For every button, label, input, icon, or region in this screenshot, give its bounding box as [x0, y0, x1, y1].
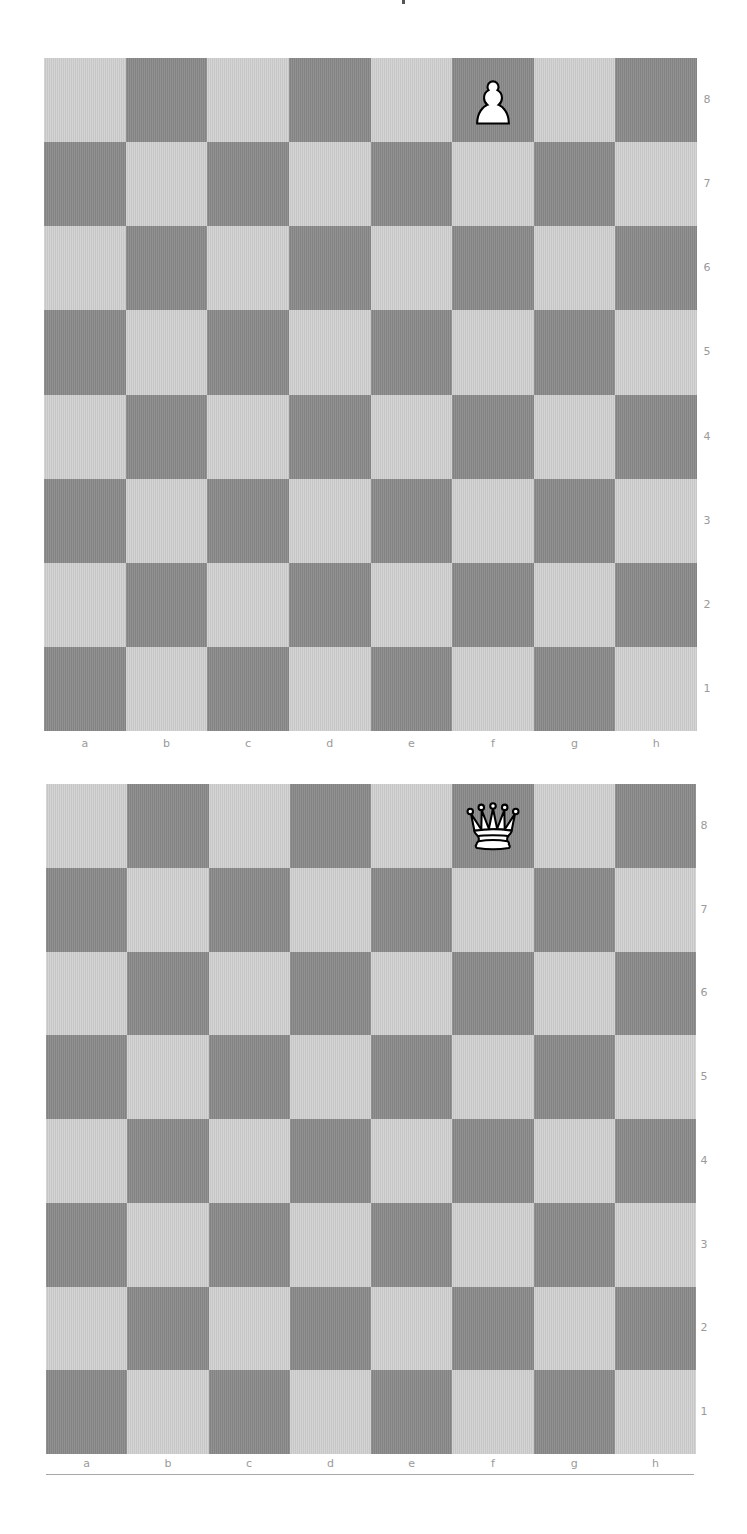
square-c1[interactable] [207, 647, 289, 731]
square-f3[interactable] [452, 479, 534, 563]
square-d6[interactable] [289, 226, 371, 310]
square-f5[interactable] [452, 1035, 533, 1119]
square-g7[interactable] [534, 142, 616, 226]
square-h1[interactable] [615, 1370, 696, 1454]
square-f4[interactable] [452, 395, 534, 479]
square-d1[interactable] [289, 647, 371, 731]
square-e7[interactable] [371, 868, 452, 952]
square-d4[interactable] [289, 395, 371, 479]
square-b3[interactable] [127, 1203, 208, 1287]
square-b2[interactable] [126, 563, 208, 647]
square-b4[interactable] [127, 1119, 208, 1203]
square-h8[interactable] [615, 784, 696, 868]
square-a5[interactable] [44, 310, 126, 394]
square-g1[interactable] [534, 647, 616, 731]
square-c2[interactable] [209, 1287, 290, 1371]
square-c4[interactable] [207, 395, 289, 479]
square-e5[interactable] [371, 310, 453, 394]
square-h1[interactable] [615, 647, 697, 731]
square-b7[interactable] [127, 868, 208, 952]
square-f3[interactable] [452, 1203, 533, 1287]
square-g4[interactable] [534, 1119, 615, 1203]
square-a3[interactable] [44, 479, 126, 563]
square-c7[interactable] [209, 868, 290, 952]
square-h6[interactable] [615, 952, 696, 1036]
square-f7[interactable] [452, 142, 534, 226]
square-h5[interactable] [615, 310, 697, 394]
square-g3[interactable] [534, 479, 616, 563]
square-a8[interactable] [44, 58, 126, 142]
square-b5[interactable] [127, 1035, 208, 1119]
square-f2[interactable] [452, 563, 534, 647]
square-g2[interactable] [534, 1287, 615, 1371]
square-a7[interactable] [46, 868, 127, 952]
square-a2[interactable] [46, 1287, 127, 1371]
square-h4[interactable] [615, 1119, 696, 1203]
square-e3[interactable] [371, 1203, 452, 1287]
square-a1[interactable] [46, 1370, 127, 1454]
square-h7[interactable] [615, 868, 696, 952]
square-c6[interactable] [207, 226, 289, 310]
square-d1[interactable] [290, 1370, 371, 1454]
square-d5[interactable] [290, 1035, 371, 1119]
square-a8[interactable] [46, 784, 127, 868]
square-a1[interactable] [44, 647, 126, 731]
square-a4[interactable] [44, 395, 126, 479]
square-f1[interactable] [452, 1370, 533, 1454]
square-e5[interactable] [371, 1035, 452, 1119]
square-c5[interactable] [207, 310, 289, 394]
square-b1[interactable] [126, 647, 208, 731]
square-h6[interactable] [615, 226, 697, 310]
square-h3[interactable] [615, 1203, 696, 1287]
square-e4[interactable] [371, 1119, 452, 1203]
square-f7[interactable] [452, 868, 533, 952]
square-g6[interactable] [534, 226, 616, 310]
square-b2[interactable] [127, 1287, 208, 1371]
square-e3[interactable] [371, 479, 453, 563]
square-f4[interactable] [452, 1119, 533, 1203]
square-e2[interactable] [371, 563, 453, 647]
square-b6[interactable] [126, 226, 208, 310]
square-d2[interactable] [290, 1287, 371, 1371]
square-a4[interactable] [46, 1119, 127, 1203]
square-d6[interactable] [290, 952, 371, 1036]
square-d7[interactable] [289, 142, 371, 226]
square-b5[interactable] [126, 310, 208, 394]
square-f6[interactable] [452, 952, 533, 1036]
square-a2[interactable] [44, 563, 126, 647]
square-h7[interactable] [615, 142, 697, 226]
square-d2[interactable] [289, 563, 371, 647]
square-c1[interactable] [209, 1370, 290, 1454]
square-c3[interactable] [209, 1203, 290, 1287]
square-a6[interactable] [44, 226, 126, 310]
square-d3[interactable] [289, 479, 371, 563]
square-b3[interactable] [126, 479, 208, 563]
square-c6[interactable] [209, 952, 290, 1036]
square-g8[interactable] [534, 58, 616, 142]
square-b4[interactable] [126, 395, 208, 479]
square-e6[interactable] [371, 952, 452, 1036]
square-h2[interactable] [615, 1287, 696, 1371]
square-c5[interactable] [209, 1035, 290, 1119]
square-c7[interactable] [207, 142, 289, 226]
square-h5[interactable] [615, 1035, 696, 1119]
white-pawn-icon[interactable] [462, 69, 524, 131]
square-e4[interactable] [371, 395, 453, 479]
square-g2[interactable] [534, 563, 616, 647]
square-c8[interactable] [207, 58, 289, 142]
square-b1[interactable] [127, 1370, 208, 1454]
square-h2[interactable] [615, 563, 697, 647]
square-g8[interactable] [534, 784, 615, 868]
square-d4[interactable] [290, 1119, 371, 1203]
square-h3[interactable] [615, 479, 697, 563]
square-c8[interactable] [209, 784, 290, 868]
square-g5[interactable] [534, 310, 616, 394]
square-a5[interactable] [46, 1035, 127, 1119]
square-a7[interactable] [44, 142, 126, 226]
square-e1[interactable] [371, 647, 453, 731]
square-c4[interactable] [209, 1119, 290, 1203]
square-g7[interactable] [534, 868, 615, 952]
square-b6[interactable] [127, 952, 208, 1036]
square-c2[interactable] [207, 563, 289, 647]
square-g4[interactable] [534, 395, 616, 479]
